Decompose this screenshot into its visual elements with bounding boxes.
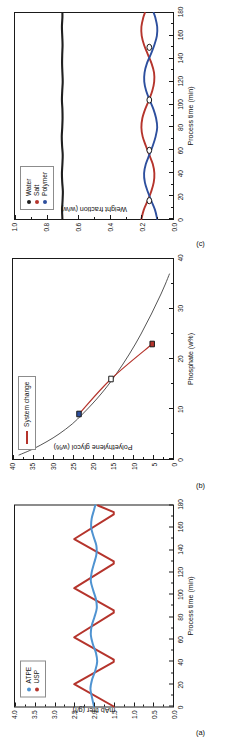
y-tick-label: 0.0: [171, 223, 178, 232]
legend-item: System change: [24, 382, 31, 444]
y-tick-label: 0: [171, 463, 178, 466]
panel-b-figure: 010203040 0510152025303540 Phosphate (w%…: [0, 248, 232, 494]
x-tick-label: 160: [177, 521, 184, 531]
x-tick-label: 40: [177, 255, 184, 262]
legend-label-polymer: Polymer: [42, 172, 49, 196]
y-tick-label: 0.0: [171, 710, 178, 719]
y-tick-label: 1.0: [131, 710, 138, 719]
x-tick-label: 30: [177, 305, 184, 312]
x-tick-label: 160: [177, 30, 184, 40]
panel-a-figure: 020406080100120140160180 0.00.51.01.52.0…: [0, 492, 232, 739]
y-tick-label: 40: [9, 463, 16, 470]
x-tick-label: 20: [177, 193, 184, 200]
legend-marker-polymer: [43, 200, 47, 204]
legend-item: Polymer: [42, 172, 49, 204]
x-tick-label: 40: [177, 170, 184, 177]
y-tick-label: 1.0: [11, 223, 18, 232]
panel-c-legend: Water Salt Polymer: [20, 166, 54, 210]
panel-a: 020406080100120140160180 0.00.51.01.52.0…: [0, 492, 232, 739]
legend-marker-salt: [35, 200, 39, 204]
y-tick-label: 15: [110, 463, 117, 470]
legend-label-system-change: System change: [24, 382, 31, 427]
x-tick-label: 20: [177, 356, 184, 363]
legend-marker-atpe: [27, 687, 31, 691]
panel-c-figure: 020406080100120140160180 0.00.20.40.60.8…: [0, 0, 232, 250]
panel-c-label: (c): [196, 239, 205, 248]
x-tick-label: 180: [177, 499, 184, 509]
y-tick-label: 0.5: [151, 710, 158, 719]
y-tick-label: 5: [150, 463, 157, 466]
x-tick-label: 100: [177, 589, 184, 599]
panel-c-x-axis-title: Process time (min): [187, 86, 195, 145]
x-tick-label: 100: [177, 99, 184, 109]
panel-b-y-axis-title: Polyethylene glycol (w%): [54, 443, 133, 451]
x-tick-label: 180: [177, 7, 184, 17]
x-tick-label: 0: [177, 458, 184, 461]
panel-a-y-axis-title: mAb titer (g/l): [73, 706, 116, 714]
legend-marker-usp: [35, 687, 39, 691]
panel-a-x-axis-title: Process time (min): [187, 576, 195, 635]
legend-line-system-change: [26, 431, 28, 444]
y-tick-label: 20: [90, 463, 97, 470]
x-tick-label: 120: [177, 566, 184, 576]
x-tick-label: 140: [177, 544, 184, 554]
legend-item: Salt: [34, 172, 41, 204]
x-tick-label: 140: [177, 53, 184, 63]
x-tick-label: 80: [177, 124, 184, 131]
y-tick-label: 0.2: [139, 223, 146, 232]
legend-label-atpe: ATPE: [26, 666, 33, 683]
x-tick-label: 0: [177, 705, 184, 708]
y-tick-label: 10: [130, 463, 137, 470]
panel-b-label: (b): [196, 481, 205, 490]
panel-a-label: (a): [196, 728, 205, 737]
panel-c: 020406080100120140160180 0.00.20.40.60.8…: [0, 0, 232, 250]
x-tick-label: 0: [177, 218, 184, 221]
y-tick-label: 3.5: [31, 710, 38, 719]
y-tick-label: 0.8: [43, 223, 50, 232]
legend-item: ATPE: [26, 666, 33, 691]
panel-b-plot-area: [12, 258, 174, 460]
x-tick-label: 80: [177, 613, 184, 620]
y-tick-label: 35: [29, 463, 36, 470]
x-tick-label: 60: [177, 636, 184, 643]
x-tick-label: 20: [177, 681, 184, 688]
x-tick-label: 60: [177, 147, 184, 154]
legend-label-water: Water: [26, 179, 33, 196]
panel-b-legend: System change: [18, 376, 36, 450]
y-tick-label: 4.0: [11, 710, 18, 719]
panel-b: 010203040 0510152025303540 Phosphate (w%…: [0, 248, 232, 494]
panel-b-ticks: [13, 259, 173, 459]
x-tick-label: 40: [177, 658, 184, 665]
y-tick-label: 0.6: [75, 223, 82, 232]
panel-a-legend: ATPE USP: [20, 660, 46, 697]
legend-marker-water: [27, 200, 31, 204]
x-tick-label: 120: [177, 76, 184, 86]
y-tick-label: 0.4: [107, 223, 114, 232]
panel-c-y-axis-title: Weight fraction (w/w): [61, 205, 127, 213]
legend-item: Water: [26, 172, 33, 204]
legend-label-salt: Salt: [34, 185, 41, 196]
x-tick-label: 10: [177, 406, 184, 413]
y-tick-label: 25: [69, 463, 76, 470]
panel-b-x-axis-title: Phosphate (w%): [187, 333, 195, 385]
y-tick-label: 3.0: [51, 710, 58, 719]
y-tick-label: 30: [49, 463, 56, 470]
legend-item: USP: [34, 666, 41, 691]
legend-label-usp: USP: [34, 669, 41, 683]
figure-page: 020406080100120140160180 0.00.20.40.60.8…: [0, 0, 232, 739]
